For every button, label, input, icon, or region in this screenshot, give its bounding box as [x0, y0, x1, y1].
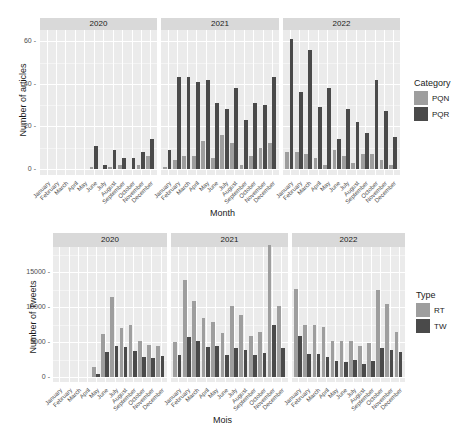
y-axis-title: Number of articles — [18, 55, 28, 145]
bar-tw — [151, 358, 155, 377]
bar-pqn — [351, 163, 355, 169]
bar-pqr — [327, 88, 331, 169]
bar-pqr — [356, 122, 360, 169]
bar-pqr — [375, 80, 379, 169]
bar-tw — [380, 348, 384, 377]
bar-tw — [326, 357, 330, 377]
bar-rt — [92, 367, 96, 378]
bar-tw — [206, 347, 210, 377]
bar-pqn — [118, 165, 122, 169]
bar-pqr — [225, 109, 229, 169]
bar-tw — [281, 348, 285, 377]
gridline — [53, 377, 167, 378]
bar-tw — [124, 347, 128, 377]
bar-rt — [173, 342, 177, 377]
bar-rt — [239, 315, 243, 377]
bar-tw — [187, 337, 191, 377]
facet-strip: 2021 — [161, 18, 279, 30]
bar-pqn — [146, 156, 150, 169]
bar-rt — [303, 325, 307, 377]
bar-rt — [258, 332, 262, 377]
bar-rt — [202, 318, 206, 377]
gridline — [40, 105, 157, 106]
gridline-v — [65, 30, 66, 175]
gridline — [161, 63, 279, 64]
bar-tw — [263, 353, 267, 378]
y-tick-label: 0 - — [4, 165, 36, 172]
legend-key-pqn: PQN — [414, 91, 451, 105]
bar-pqr — [122, 158, 126, 169]
plot-panel — [171, 247, 288, 382]
gridline-v — [132, 30, 133, 175]
legend-key-rt: RT — [416, 303, 446, 317]
plot-panel — [161, 30, 279, 175]
gridline-v — [122, 30, 123, 175]
bar-tw — [371, 361, 375, 377]
gridline — [40, 169, 157, 170]
bar-pqr — [150, 139, 154, 169]
bar-pqn — [342, 156, 346, 169]
x-axis-title: Month — [0, 208, 445, 218]
gridline-v — [75, 30, 76, 175]
bar-tw — [307, 354, 311, 377]
bar-pqn — [323, 165, 327, 169]
bar-pqn — [389, 165, 393, 169]
bar-pqn — [201, 141, 205, 169]
bar-rt — [101, 334, 105, 377]
bar-pqr — [196, 82, 200, 169]
legend-swatch — [416, 319, 430, 333]
bar-pqr — [206, 80, 210, 169]
bar-pqn — [137, 165, 141, 169]
bar-rt — [230, 306, 234, 377]
bar-rt — [294, 289, 298, 377]
gridline — [53, 255, 167, 256]
bar-tw — [115, 346, 119, 378]
gridline-v — [47, 30, 48, 175]
bar-rt — [358, 346, 362, 378]
legend-label: PQN — [432, 94, 449, 103]
bar-tw — [105, 352, 109, 377]
bar-pqn — [259, 148, 263, 169]
bar-rt — [367, 343, 371, 377]
bar-rt — [221, 333, 225, 377]
bar-tw — [244, 350, 248, 377]
legend: CategoryPQNPQR — [414, 78, 451, 123]
bar-rt — [120, 328, 124, 377]
facet-strip: 2020 — [53, 233, 167, 247]
bar-pqn — [163, 167, 167, 169]
bar-tw — [362, 364, 366, 377]
bar-pqn — [285, 152, 289, 169]
gridline-v — [78, 247, 79, 382]
bar-tw — [390, 350, 394, 377]
gridline — [161, 169, 279, 170]
gridline — [40, 148, 157, 149]
bar-rt — [192, 301, 196, 377]
bar-rt — [249, 336, 253, 377]
y-axis-title: Number of Tweets — [28, 272, 38, 362]
bar-pqr — [290, 39, 294, 169]
bar-pqn — [220, 135, 224, 169]
legend-key-tw: TW — [416, 319, 446, 333]
plot-panel — [292, 247, 405, 382]
bar-pqr — [244, 120, 248, 169]
gridline-v — [362, 247, 363, 382]
bar-pqr — [384, 111, 388, 169]
bar-pqr — [365, 133, 369, 169]
bar-tw — [344, 362, 348, 377]
bar-pqr — [113, 150, 117, 169]
bar-pqn — [304, 154, 308, 169]
gridline — [283, 63, 400, 64]
legend-key-pqr: PQR — [414, 107, 451, 121]
bar-pqn — [314, 158, 318, 169]
bar-pqr — [272, 77, 276, 169]
bar-pqn — [380, 160, 384, 169]
bar-pqn — [240, 165, 244, 169]
legend-swatch — [414, 107, 428, 121]
gridline-v — [103, 30, 104, 175]
bar-rt — [183, 280, 187, 377]
bar-tw — [399, 352, 403, 377]
bar-pqn — [230, 143, 234, 169]
bar-pqr — [308, 50, 312, 169]
bar-rt — [156, 346, 160, 377]
gridline — [283, 41, 400, 42]
